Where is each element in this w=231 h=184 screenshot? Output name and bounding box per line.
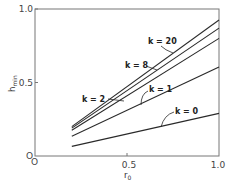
label-k20: k = 20 <box>148 37 177 46</box>
x-tick-label-0.5: 0.5 <box>122 160 136 170</box>
y-tick-label-0.5: 0.5 <box>19 78 33 88</box>
line-chart: 1.0 0.5 O O 0.5 1.0 hmin r0 k = 20 k = 8… <box>0 0 231 184</box>
svg-text:r0: r0 <box>124 170 132 181</box>
y-tick-label-1.0: 1.0 <box>19 4 34 14</box>
label-k0: k = 0 <box>175 107 199 116</box>
leader-k20 <box>161 46 173 53</box>
label-k8: k = 8 <box>125 61 149 70</box>
svg-text:hmin: hmin <box>7 75 18 92</box>
series-line-k2 <box>72 38 219 130</box>
y-axis-label: hmin <box>7 75 18 92</box>
series-line-k0 <box>72 113 219 146</box>
label-k2: k = 2 <box>82 95 105 104</box>
x-axis-label: r0 <box>124 170 132 181</box>
origin-x-label: O <box>31 157 38 167</box>
label-k1: k = 1 <box>149 85 173 94</box>
x-tick-label-1.0: 1.0 <box>211 160 226 170</box>
series-lines <box>72 20 219 146</box>
